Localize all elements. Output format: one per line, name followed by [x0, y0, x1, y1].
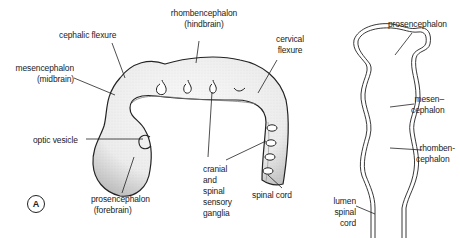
label-optic-vesicle: optic vesicle	[33, 134, 78, 145]
label-mesencephalon: mesencephalon (midbrain)	[14, 62, 74, 84]
label-spinal-cord: spinal cord	[252, 189, 292, 200]
embryo-brain-outline	[93, 57, 288, 196]
label-rhombencephalon: rhombencephalon (hindbrain)	[171, 7, 238, 29]
label-sensory-ganglia: cranial and spinal sensory ganglia	[203, 163, 232, 218]
label-cervical-flexure: cervical flexure	[271, 33, 310, 55]
label-lumen-spinal-cord: lumen spinal cord	[323, 195, 356, 228]
label-prosencephalon-right: prosencephalon	[388, 18, 447, 29]
label-mesencephalon-right: mesen– cephalon	[411, 93, 445, 115]
label-prosencephalon-left: prosencephalon (forebrain)	[91, 193, 150, 215]
label-cephalic-flexure: cephalic flexure	[59, 29, 116, 40]
panel-label: A	[27, 195, 45, 213]
neural-tube-outline	[354, 24, 431, 238]
figure-canvas: cephalic flexure rhombencephalon (hindbr…	[0, 0, 460, 238]
label-rhombencephalon-right: rhomben- cephalon	[416, 142, 455, 164]
